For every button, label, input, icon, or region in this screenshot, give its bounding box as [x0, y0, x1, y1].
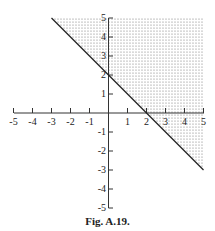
svg-text:-5: -5: [98, 202, 106, 213]
svg-text:-3: -3: [98, 164, 106, 175]
svg-text:-1: -1: [85, 116, 93, 127]
svg-text:4: 4: [101, 31, 106, 42]
svg-text:5: 5: [201, 116, 206, 127]
svg-text:5: 5: [101, 12, 106, 23]
svg-text:3: 3: [163, 116, 168, 127]
svg-text:1: 1: [125, 116, 130, 127]
svg-text:3: 3: [101, 50, 106, 61]
figure-caption: Fig. A.19.: [0, 215, 215, 227]
svg-text:-4: -4: [28, 116, 36, 127]
svg-text:2: 2: [144, 116, 149, 127]
svg-text:1: 1: [101, 88, 106, 99]
svg-text:-5: -5: [9, 116, 17, 127]
svg-text:4: 4: [182, 116, 187, 127]
svg-text:-3: -3: [47, 116, 55, 127]
svg-text:-1: -1: [98, 126, 106, 137]
svg-text:-4: -4: [98, 183, 106, 194]
coordinate-plane: -5 -4 -3 -2 -1 1 2 3 4 5 1 2 3 4 5 -1 -2…: [0, 0, 215, 231]
svg-text:-2: -2: [98, 145, 106, 156]
svg-text:-2: -2: [66, 116, 74, 127]
svg-text:2: 2: [101, 69, 106, 80]
